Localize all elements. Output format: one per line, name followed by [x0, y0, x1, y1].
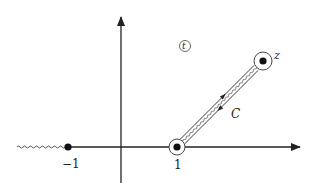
label-plane-t: t	[182, 40, 186, 52]
label-contour-c: C	[231, 108, 240, 120]
label-minus-one: −1	[62, 158, 80, 170]
label-one: 1	[174, 159, 182, 171]
branch-cut-left	[17, 146, 68, 148]
branch-cut-diagonal	[182, 67, 257, 142]
point-minus-one	[64, 143, 71, 150]
point-one	[173, 143, 180, 150]
complex-plane-diagram	[0, 0, 320, 191]
contour-upper-edge	[180, 66, 254, 140]
label-z: z	[274, 50, 280, 62]
contour-c	[179, 63, 261, 145]
point-z	[259, 57, 266, 64]
